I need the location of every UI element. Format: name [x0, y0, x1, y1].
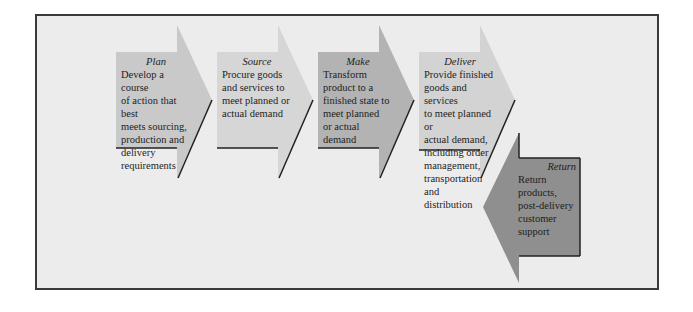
source-title: Source [222, 55, 292, 68]
return-text: Return Return products, post-delivery cu… [518, 160, 580, 238]
deliver-text: Deliver Provide finished goods and servi… [424, 55, 496, 211]
deliver-title: Deliver [424, 55, 496, 68]
make-text: Make Transform product to a finished sta… [323, 55, 393, 146]
source-text: Source Procure goods and services to mee… [222, 55, 292, 120]
arrow-shapes [0, 0, 693, 312]
return-title: Return [518, 160, 580, 173]
plan-text: Plan Develop a course of action that bes… [121, 55, 191, 172]
plan-title: Plan [121, 55, 191, 68]
make-title: Make [323, 55, 393, 68]
